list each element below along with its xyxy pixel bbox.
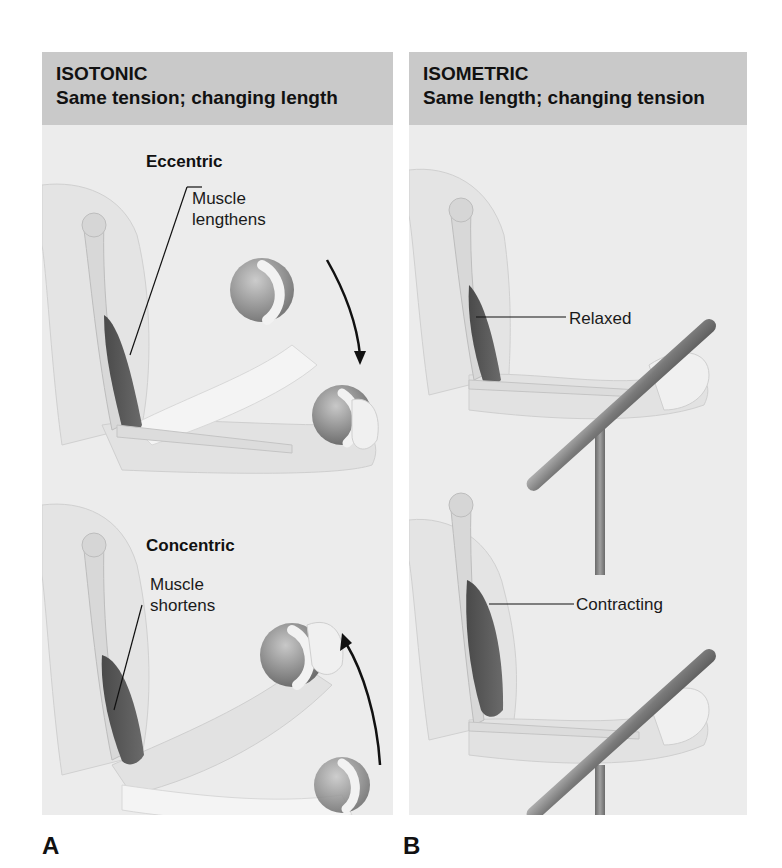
contracting-arm-illustration [409, 493, 709, 763]
isotonic-subtitle: Same tension; changing length [56, 86, 338, 110]
concentric-heading: Concentric [146, 536, 235, 556]
contracting-callout: Contracting [576, 594, 663, 615]
isometric-title: ISOMETRIC [423, 62, 529, 86]
panel-b-label: B [403, 832, 420, 860]
isotonic-header: ISOTONIC Same tension; changing length [42, 52, 393, 125]
relaxed-arm-illustration [409, 169, 709, 418]
isotonic-title: ISOTONIC [56, 62, 148, 86]
panel-a-label: A [42, 832, 59, 860]
isometric-header: ISOMETRIC Same length; changing tension [409, 52, 747, 125]
concentric-callout-line2: shortens [150, 595, 215, 616]
isometric-illustration [409, 125, 747, 815]
isometric-subtitle: Same length; changing tension [423, 86, 705, 110]
isometric-panel: ISOMETRIC Same length; changing tension [409, 52, 747, 815]
upper-stand-pole [595, 425, 605, 575]
lower-stand-pole [595, 765, 605, 815]
eccentric-heading: Eccentric [146, 152, 223, 172]
eccentric-callout-line2: lengthens [192, 209, 266, 230]
concentric-callout-line1: Muscle [150, 574, 204, 595]
isotonic-panel: ISOTONIC Same tension; changing length [42, 52, 393, 815]
relaxed-callout: Relaxed [569, 308, 631, 329]
eccentric-motion-arrow [327, 260, 360, 355]
concentric-motion-arrow [347, 645, 380, 765]
eccentric-callout-line1: Muscle [192, 188, 246, 209]
